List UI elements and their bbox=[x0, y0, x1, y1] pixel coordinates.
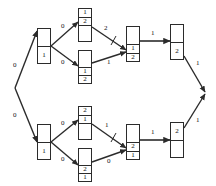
edge-label-bottom-start-to-upper: 0 bbox=[61, 120, 65, 127]
node-bottom-start-lower-cell: 1 bbox=[38, 142, 50, 159]
node-bottom-merge-value-b: 1 bbox=[127, 151, 139, 160]
node-top-merge-lower-cell: 1 2 bbox=[127, 44, 139, 61]
edge-label-top-lower-to-merge: 1 bbox=[107, 59, 111, 66]
node-bottom-end-lower-cell bbox=[171, 140, 183, 157]
edge-label-bottom-lower-to-merge: 0 bbox=[107, 158, 111, 165]
edge-label-top-merge-to-end: 1 bbox=[151, 30, 155, 37]
edge-label-top-start-to-upper: 0 bbox=[61, 23, 65, 30]
node-top-end-lower-cell: 2 bbox=[171, 42, 183, 59]
node-bottom-lower-upper-cell bbox=[79, 149, 91, 165]
node-top-merge: 1 2 bbox=[126, 26, 140, 62]
node-top-start-lower-cell: 1 bbox=[38, 46, 50, 63]
node-bottom-lower-lower-cell: 2 1 bbox=[79, 165, 91, 181]
node-top-upper-lower-cell bbox=[79, 25, 91, 41]
node-top-start-upper-cell bbox=[38, 29, 50, 46]
node-bottom-lower-value-a: 2 bbox=[79, 166, 91, 173]
edge-label-bottom-merge-to-end: 1 bbox=[151, 129, 155, 136]
edge-label-top-start-to-lower: 0 bbox=[61, 59, 65, 66]
node-top-start: 1 bbox=[37, 28, 51, 64]
node-bottom-upper-value-b: 1 bbox=[79, 115, 91, 124]
edge-label-top-end-to-sink: 1 bbox=[196, 60, 200, 67]
node-top-end: 2 bbox=[170, 24, 184, 60]
node-bottom-end-upper-cell: 2 bbox=[171, 123, 183, 140]
node-bottom-merge-upper-cell bbox=[127, 125, 139, 142]
node-top-upper-value-a: 1 bbox=[79, 9, 91, 17]
node-top-lower-value-b: 2 bbox=[79, 75, 91, 83]
node-bottom-start-upper-cell bbox=[38, 125, 50, 142]
node-top-lower-lower-cell: 1 2 bbox=[79, 67, 91, 83]
node-bottom-lower: 2 1 bbox=[78, 148, 92, 182]
node-bottom-merge: 2 1 bbox=[126, 124, 140, 160]
edge-source-to-top-start bbox=[15, 31, 37, 88]
edge-top-end-to-sink bbox=[184, 56, 205, 92]
node-top-upper: 1 2 bbox=[78, 8, 92, 42]
edge-label-bottom-upper-to-merge: 1 bbox=[105, 122, 109, 129]
node-bottom-lower-value-b: 1 bbox=[79, 173, 91, 181]
edge-label-source-to-bottom: 0 bbox=[13, 112, 17, 119]
edge-label-bottom-start-to-lower: 0 bbox=[61, 156, 65, 163]
edge-bottom-end-to-sink bbox=[184, 94, 205, 128]
node-bottom-upper-upper-cell: 2 1 bbox=[79, 107, 91, 123]
node-bottom-start: 1 bbox=[37, 124, 51, 160]
edge-label-top-upper-to-merge: 2 bbox=[104, 25, 108, 32]
node-bottom-merge-value-a: 2 bbox=[127, 143, 139, 151]
node-top-merge-value-b: 2 bbox=[127, 53, 139, 62]
node-top-merge-value-a: 1 bbox=[127, 45, 139, 53]
node-bottom-upper-lower-cell bbox=[79, 123, 91, 139]
node-bottom-upper: 2 1 bbox=[78, 106, 92, 140]
node-bottom-end: 2 bbox=[170, 122, 184, 158]
node-top-upper-value-b: 2 bbox=[79, 17, 91, 26]
edge-top-upper-to-merge bbox=[92, 27, 126, 50]
trellis-diagram: 1 1 2 1 2 1 2 2 1 2 1 bbox=[0, 0, 216, 186]
node-top-upper-upper-cell: 1 2 bbox=[79, 9, 91, 25]
edge-source-to-bottom-start bbox=[15, 88, 37, 142]
node-top-lower: 1 2 bbox=[78, 50, 92, 84]
edge-bottom-upper-to-merge bbox=[92, 124, 126, 148]
node-top-lower-value-a: 1 bbox=[79, 68, 91, 75]
edge-label-source-to-top: 0 bbox=[13, 62, 17, 69]
node-top-lower-upper-cell bbox=[79, 51, 91, 67]
node-top-end-upper-cell bbox=[171, 25, 183, 42]
node-bottom-merge-lower-cell: 2 1 bbox=[127, 142, 139, 159]
edge-label-bottom-end-to-sink: 1 bbox=[196, 117, 200, 124]
node-top-merge-upper-cell bbox=[127, 27, 139, 44]
node-bottom-upper-value-a: 2 bbox=[79, 107, 91, 115]
